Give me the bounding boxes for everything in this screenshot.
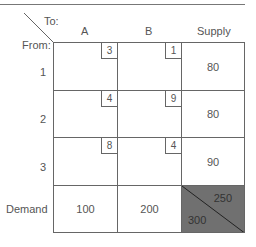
demand-value: 200 [118, 203, 181, 215]
supply-cell-3: 90 [181, 137, 245, 186]
cell-1-a: 3 [53, 42, 118, 91]
row-label-2: 2 [40, 113, 46, 125]
from-label: From: [22, 39, 51, 51]
to-label: To: [44, 15, 59, 27]
demand-cell-b: 200 [117, 185, 182, 233]
cell-3-a: 8 [53, 137, 118, 186]
demand-value: 100 [54, 203, 117, 215]
cost-box: 8 [101, 137, 118, 154]
demand-label: Demand [6, 203, 48, 215]
demand-total: 300 [188, 214, 206, 226]
column-header-supply: Supply [197, 25, 231, 37]
demand-cell-a: 100 [53, 185, 118, 233]
column-header-a: A [81, 25, 88, 37]
column-header-b: B [145, 25, 152, 37]
cell-3-b: 4 [117, 137, 182, 186]
cost-box: 4 [101, 90, 118, 107]
cell-2-a: 4 [53, 90, 118, 138]
supply-cell-1: 80 [181, 42, 245, 91]
cost-box: 4 [165, 137, 182, 154]
cell-1-b: 1 [117, 42, 182, 91]
supply-cell-2: 80 [181, 90, 245, 138]
cost-box: 1 [165, 42, 182, 59]
supply-total: 250 [214, 192, 232, 204]
row-label-1: 1 [40, 66, 46, 78]
cell-2-b: 9 [117, 90, 182, 138]
supply-value: 80 [182, 108, 244, 120]
supply-value: 80 [182, 61, 244, 73]
transportation-table: 3 1 80 4 9 80 8 4 90 100 200 250 300 [53, 42, 245, 233]
cost-box: 3 [101, 42, 118, 59]
cost-box: 9 [165, 90, 182, 107]
row-label-3: 3 [40, 161, 46, 173]
supply-value: 90 [182, 156, 244, 168]
totals-corner-cell: 250 300 [181, 185, 245, 233]
